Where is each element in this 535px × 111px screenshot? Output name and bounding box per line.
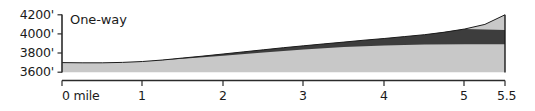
- x-tick-label-5-5: 5.5: [497, 90, 516, 103]
- x-tick-label-0: 0 mile: [62, 90, 100, 103]
- x-tick-label-2: 2: [219, 90, 227, 103]
- x-tick-label-1: 1: [138, 90, 146, 103]
- x-tick-label-4: 4: [380, 90, 388, 103]
- elevation-profile-chart: 4200' 4000' 3800' 3600' O: [0, 0, 535, 111]
- x-axis-labels: 0 mile 1 2 3 4 5 5.5: [0, 0, 535, 111]
- x-tick-label-3: 3: [299, 90, 307, 103]
- x-tick-label-5: 5: [460, 90, 468, 103]
